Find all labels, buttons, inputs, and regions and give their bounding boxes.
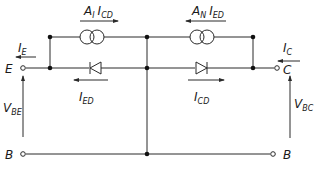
label-voltage-be: VBE (3, 101, 23, 117)
label-source-forward: AIICD (83, 4, 113, 20)
terminal-base-right (271, 152, 276, 157)
label-current-emitter: IE (18, 41, 28, 57)
circuit-diagram: E C B B IE IC AIICD ANIED IED ICD VBE VB… (0, 0, 316, 169)
current-source-right-icon (190, 30, 214, 44)
label-emitter: E (5, 62, 13, 76)
terminal-emitter (21, 66, 26, 71)
label-current-collector: IC (283, 41, 293, 57)
label-base-left: B (5, 148, 13, 162)
diode-collector-icon (196, 62, 207, 74)
terminal-collector (275, 66, 280, 71)
label-diode-collector: ICD (194, 90, 209, 106)
label-voltage-bc: VBC (294, 97, 314, 113)
label-source-reverse: ANIED (191, 4, 224, 20)
diode-emitter-icon (90, 62, 101, 74)
label-base-right: B (283, 148, 291, 162)
label-collector: C (283, 63, 292, 77)
current-source-left-icon (80, 30, 104, 44)
terminal-base-left (21, 152, 26, 157)
label-diode-emitter: IED (79, 90, 94, 106)
